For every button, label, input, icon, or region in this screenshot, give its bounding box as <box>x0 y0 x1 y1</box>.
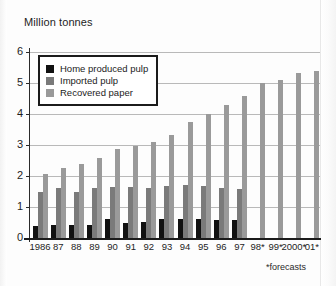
legend-swatch-icon-imported-pulp <box>46 77 54 85</box>
bar-recovered <box>278 80 283 238</box>
bar-recovered <box>188 122 193 238</box>
y-axis-tick-label: 5 <box>7 76 23 88</box>
bar-group <box>232 52 247 238</box>
bar-recovered <box>79 164 84 238</box>
bar-recovered <box>260 83 265 238</box>
bar-recovered <box>151 142 156 238</box>
bar-recovered <box>169 135 174 238</box>
x-axis-tick-label: 95 <box>194 241 212 252</box>
x-axis-tick-label: 88 <box>67 241 85 252</box>
y-axis-tick-label: 1 <box>7 200 23 212</box>
bar-group <box>214 52 229 238</box>
legend-label-recovered-paper: Recovered paper <box>60 87 133 98</box>
legend-item-home-produced-pulp: Home produced pulp <box>46 63 148 74</box>
chart-legend: Home produced pulp Imported pulp Recover… <box>38 55 158 106</box>
bar-group <box>178 52 193 238</box>
bar-recovered <box>314 71 319 238</box>
legend-item-imported-pulp: Imported pulp <box>46 75 148 86</box>
bar-group <box>159 52 174 238</box>
x-axis-tick-label: 97 <box>230 241 248 252</box>
x-axis-labels: 1986878889909192939495969798*99*2000*01* <box>0 241 336 255</box>
bar-recovered <box>206 114 211 238</box>
y-axis-tick-label: 6 <box>7 45 23 57</box>
footnote: *forecasts <box>266 262 306 272</box>
x-axis-tick-label: 93 <box>158 241 176 252</box>
x-axis-tick-label: 96 <box>212 241 230 252</box>
y-axis-tick-label: 4 <box>7 107 23 119</box>
chart-title: Million tonnes <box>24 16 93 28</box>
bar-recovered <box>133 146 138 238</box>
bar-chart: Million tonnes 0123456 19868788899091929… <box>0 0 336 286</box>
legend-swatch-icon-recovered-paper <box>46 89 54 97</box>
bar-recovered <box>242 96 247 238</box>
x-axis-tick-label: 91 <box>122 241 140 252</box>
x-axis-tick-label: 87 <box>49 241 67 252</box>
bar-recovered <box>97 158 102 238</box>
x-axis-line <box>24 238 321 240</box>
bar-group <box>286 52 301 238</box>
x-axis-tick-label: 90 <box>104 241 122 252</box>
x-axis-tick-label: 94 <box>176 241 194 252</box>
legend-label-home-produced-pulp: Home produced pulp <box>60 63 148 74</box>
bar-group <box>304 52 319 238</box>
bar-group <box>250 52 265 238</box>
y-axis-tick-label: 3 <box>7 138 23 150</box>
bar-recovered <box>43 174 48 238</box>
bar-recovered <box>115 149 120 238</box>
bar-group <box>196 52 211 238</box>
bar-recovered <box>296 73 301 238</box>
legend-swatch-icon-home-produced-pulp <box>46 65 54 73</box>
bar-group <box>268 52 283 238</box>
y-axis-tick-label: 2 <box>7 169 23 181</box>
x-axis-tick-label: 01* <box>303 241 321 252</box>
bar-recovered <box>61 168 66 238</box>
legend-item-recovered-paper: Recovered paper <box>46 87 148 98</box>
x-axis-tick-label: 89 <box>85 241 103 252</box>
bar-recovered <box>224 105 229 238</box>
x-axis-tick-label: 92 <box>140 241 158 252</box>
x-axis-tick-label: 98* <box>249 241 267 252</box>
legend-label-imported-pulp: Imported pulp <box>60 75 118 86</box>
